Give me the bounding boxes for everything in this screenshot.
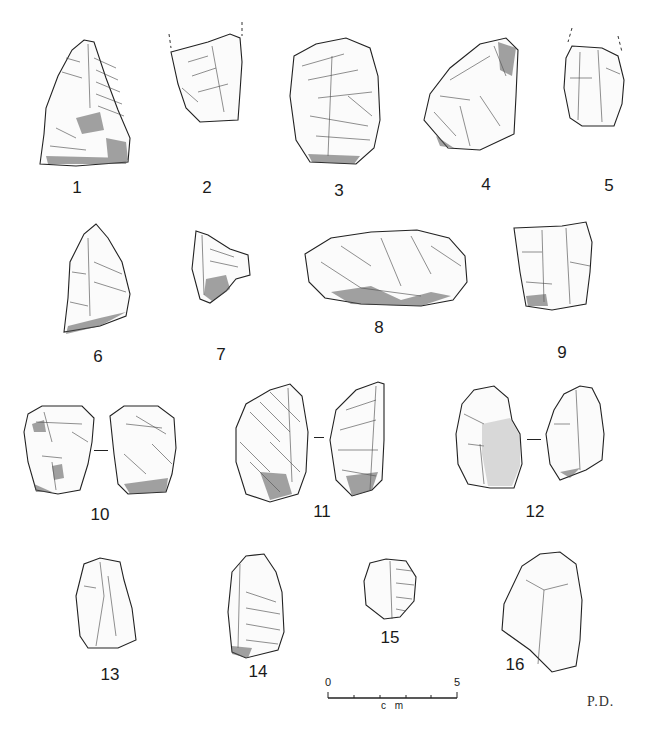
artifact-label-5: 5 [604,176,613,196]
artifact-8-drawing [301,226,469,308]
artifact-label-2: 2 [202,178,211,198]
artifact-label-9: 9 [557,343,566,363]
artifact-label-7: 7 [216,345,225,365]
artifact-12-front-drawing [454,384,526,492]
artifact-5-drawing [562,28,632,128]
artifact-12-side-drawing [540,384,610,482]
artifact-2-drawing [168,22,248,126]
view-connector-12 [527,439,541,440]
artifact-9-drawing [512,222,596,314]
view-connector-11 [314,437,324,438]
artifact-label-1: 1 [72,178,81,198]
artifact-label-15: 15 [381,628,400,648]
artifact-label-13: 13 [101,665,120,685]
artifact-11-front-drawing [230,382,310,504]
artifact-13-drawing [72,556,140,650]
scale-unit-label: c m [381,700,406,711]
artifact-label-8: 8 [374,318,383,338]
illustrator-initials: P.D. [587,694,614,710]
artifact-1-drawing [36,38,132,168]
artifact-label-12: 12 [526,502,545,522]
artifact-10-side-drawing [106,404,180,496]
artifact-plate: 1 2 3 4 5 6 7 8 9 [0,0,646,732]
artifact-label-3: 3 [334,181,343,201]
artifact-6-drawing [60,222,136,334]
artifact-11-side-drawing [326,380,388,498]
artifact-4-drawing [420,36,520,154]
artifact-label-4: 4 [481,175,490,195]
artifact-label-10: 10 [91,505,110,525]
scale-bar: 0 5 c m [326,676,462,716]
artifact-label-14: 14 [249,662,268,682]
artifact-label-16: 16 [506,655,525,675]
artifact-label-11: 11 [313,502,331,522]
artifact-label-6: 6 [93,347,102,367]
artifact-14-drawing [226,552,286,660]
artifact-10-front-drawing [22,402,96,496]
artifact-7-drawing [190,229,252,305]
artifact-3-drawing [288,36,382,168]
artifact-15-drawing [362,557,418,621]
